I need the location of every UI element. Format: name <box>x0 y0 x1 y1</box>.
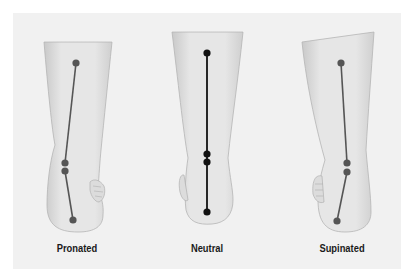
calf-marker <box>72 59 79 66</box>
calf-marker <box>337 59 344 66</box>
heel-top-marker <box>61 167 68 174</box>
heel-top-marker <box>203 158 210 165</box>
heel-bottom-marker <box>333 217 340 224</box>
heel-bottom-marker <box>69 216 76 223</box>
heel-bottom-marker <box>203 208 210 215</box>
achilles-marker <box>203 150 210 157</box>
calf-marker <box>203 49 210 56</box>
pronated-label: Pronated <box>35 242 120 254</box>
neutral-leg <box>168 30 248 224</box>
foot-alignment-diagram <box>0 0 413 279</box>
supinated-label: Supinated <box>300 242 385 254</box>
neutral-label: Neutral <box>165 242 250 254</box>
heel-top-marker <box>343 168 350 175</box>
supinated-leg <box>298 30 378 232</box>
pronated-leg <box>40 40 116 232</box>
achilles-marker <box>343 159 350 166</box>
achilles-marker <box>61 159 68 166</box>
